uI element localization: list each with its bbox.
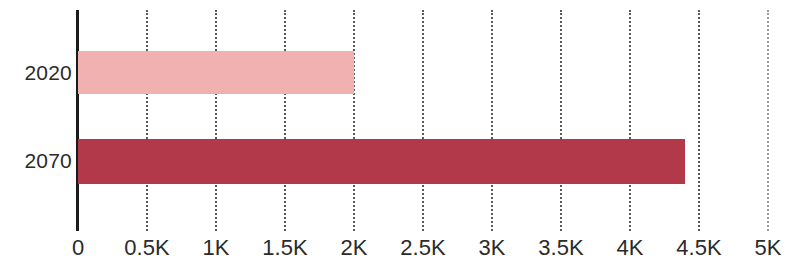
x-tick-label-5K: 5K: [755, 236, 782, 260]
x-tick-label-0.5K: 0.5K: [124, 236, 169, 260]
x-tick-label-2K: 2K: [341, 236, 368, 260]
x-tick-label-4K: 4K: [617, 236, 644, 260]
x-tick-label-1.5K: 1.5K: [262, 236, 307, 260]
x-axis-tick-labels: 00.5K1K1.5K2K2.5K3K3.5K4K4.5K5K: [0, 0, 794, 265]
x-tick-label-0: 0: [72, 236, 84, 260]
x-tick-label-2.5K: 2.5K: [400, 236, 445, 260]
x-tick-label-1K: 1K: [203, 236, 230, 260]
bar-chart: 2020 2070 00.5K1K1.5K2K2.5K3K3.5K4K4.5K5…: [0, 0, 794, 265]
x-tick-label-3K: 3K: [479, 236, 506, 260]
x-tick-label-4.5K: 4.5K: [676, 236, 721, 260]
x-tick-label-3.5K: 3.5K: [538, 236, 583, 260]
